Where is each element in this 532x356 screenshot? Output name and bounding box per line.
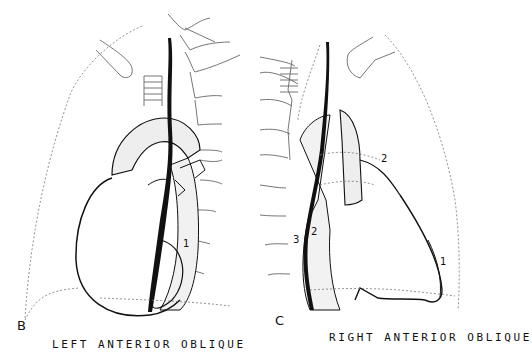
rao-heart-illustration bbox=[260, 0, 517, 356]
label-2-upper: 2 bbox=[381, 153, 387, 164]
label-3: 3 bbox=[293, 234, 299, 245]
panel-letter: B bbox=[17, 318, 26, 333]
label-1: 1 bbox=[183, 238, 189, 249]
panel-left-anterior-oblique: 1 B LEFT ANTERIOR OBLIQUE bbox=[0, 0, 260, 356]
view-title: LEFT ANTERIOR OBLIQUE bbox=[52, 338, 246, 351]
label-1: 1 bbox=[440, 256, 446, 267]
panel-letter: C bbox=[275, 313, 284, 328]
lao-heart-illustration bbox=[0, 0, 260, 356]
panel-right-anterior-oblique: 2 2 3 1 C RIGHT ANTERIOR OBLIQUE bbox=[260, 0, 517, 356]
label-2-lower: 2 bbox=[311, 226, 317, 237]
view-title: RIGHT ANTERIOR OBLIQUE bbox=[329, 331, 532, 344]
